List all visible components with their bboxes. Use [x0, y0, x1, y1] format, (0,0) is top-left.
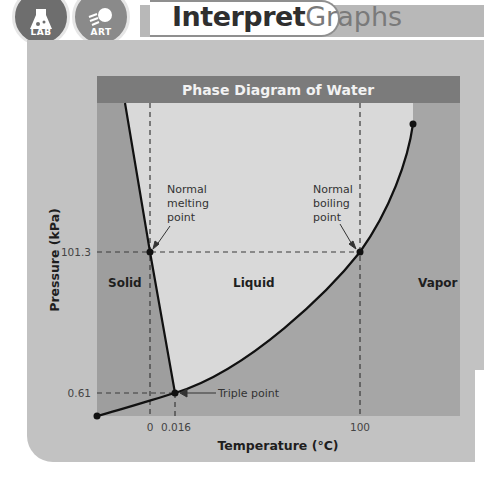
liquid-label: Liquid	[233, 276, 275, 290]
solid-label: Solid	[108, 276, 142, 290]
chart-title: Phase Diagram of Water	[182, 82, 374, 98]
triple-point-label: Triple point	[217, 387, 280, 400]
critical-point-dot	[410, 121, 417, 128]
y-tick-0-61: 0.61	[68, 387, 91, 399]
y-axis-label: Pressure (kPa)	[47, 208, 62, 312]
start-point-dot	[94, 413, 101, 420]
y-tick-101-3: 101.3	[61, 246, 91, 258]
phase-diagram-chart: Phase Diagram of Water Normal melting po…	[0, 0, 484, 490]
melting-label-2: melting	[167, 197, 209, 210]
x-tick-100: 100	[350, 421, 370, 433]
triple-point-dot	[172, 390, 179, 397]
x-tick-0-016: 0.016	[161, 421, 191, 433]
x-axis-label: Temperature (°C)	[217, 438, 338, 453]
vapor-label: Vapor	[418, 276, 458, 290]
boiling-label-3: point	[313, 211, 342, 224]
melting-label-3: point	[167, 211, 196, 224]
boiling-point-dot	[357, 249, 364, 256]
melting-label-1: Normal	[167, 183, 207, 196]
x-tick-0: 0	[147, 421, 154, 433]
boiling-label-2: boiling	[313, 197, 350, 210]
boiling-label-1: Normal	[313, 183, 353, 196]
